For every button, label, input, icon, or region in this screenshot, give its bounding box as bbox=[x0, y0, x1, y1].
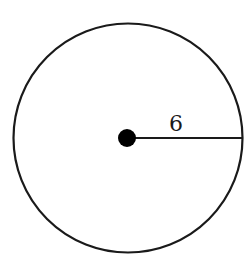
radius-label: 6 bbox=[169, 111, 183, 136]
circle-diagram: 6 bbox=[0, 0, 249, 262]
center-point bbox=[118, 129, 136, 147]
